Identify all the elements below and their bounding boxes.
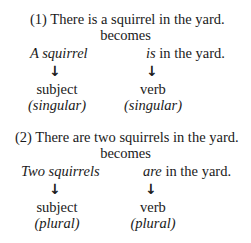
example-2-verb-label: verb <box>118 200 188 214</box>
arrow-down-icon: ↓ <box>49 182 61 196</box>
example-2-verb-number: (plural) <box>118 216 188 230</box>
example-1-verb-number: (singular) <box>118 98 188 112</box>
example-1-verb-label: verb <box>118 82 188 96</box>
example-2-subject-label: subject <box>22 200 92 214</box>
example-2-verb-word: are <box>143 163 162 179</box>
example-2-sentence: (2) There are two squirrels in the yard. <box>15 130 239 144</box>
example-1-sentence: (1) There is a squirrel in the yard. <box>30 12 225 26</box>
example-2-connector: becomes <box>0 146 251 160</box>
example-1-subject-number: (singular) <box>22 98 92 112</box>
arrow-down-icon: ↓ <box>145 182 157 196</box>
example-1-subject-label: subject <box>22 82 92 96</box>
arrow-down-icon: ↓ <box>146 64 158 78</box>
example-2-verb-phrase: are in the yard. <box>143 164 231 178</box>
example-2-verb-rest: in the yard. <box>162 163 231 179</box>
example-1-verb-phrase: is in the yard. <box>146 46 225 60</box>
example-1-verb-rest: in the yard. <box>156 45 225 61</box>
example-1-connector: becomes <box>0 28 251 42</box>
example-2-subject-number: (plural) <box>22 216 92 230</box>
example-1-subject-phrase: A squirrel <box>30 46 88 60</box>
arrow-down-icon: ↓ <box>49 64 61 78</box>
example-2-subject-phrase: Two squirrels <box>21 164 100 178</box>
example-1-verb-word: is <box>146 45 156 61</box>
